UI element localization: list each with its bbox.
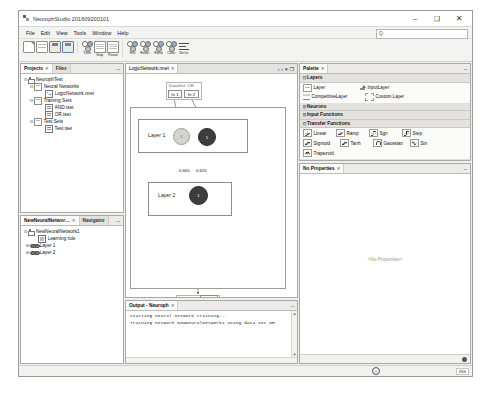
palette-item-inputlayer[interactable]: InputLayer [359,84,411,92]
minimize-icon[interactable]: – [114,216,123,225]
tset-file-icon [45,125,53,133]
pause-button[interactable]: Pause [107,41,119,57]
minimize-icon[interactable]: – [461,64,470,73]
palette-section-input-functions[interactable]: ⊞ Input Functions [300,111,470,120]
scroll-up-icon[interactable]: ▲ [292,311,297,316]
palette-item-custom-layer[interactable]: Custom Layer [365,93,417,101]
competitive-layer-glyph-icon [303,93,310,100]
scroll-left-icon[interactable]: ‹ [278,66,280,72]
menu-item-tools[interactable]: Tools [71,30,90,36]
output-chip-out1[interactable]: Out 1 [200,295,218,297]
scroll-down-icon[interactable]: ▼ [292,352,297,357]
minimize-icon[interactable]: – [114,64,123,73]
menu-item-file[interactable]: File [23,30,38,36]
clear-button[interactable]: Clear [165,41,177,55]
close-icon[interactable]: ✕ [171,303,175,308]
palette-item-linear[interactable]: Linear [303,129,333,137]
save-all-button[interactable] [62,41,74,53]
tab-files[interactable]: Files [53,64,71,73]
tree-node-and-tset[interactable]: AND.tset [22,104,122,111]
tree-node-test-sets[interactable]: ⊟ Test Sets [22,118,122,125]
randomize-button[interactable]: Rand [152,41,164,55]
minimize-icon[interactable]: – [404,12,426,26]
right-column: Palette ✕ – ⊟ Layers [299,63,471,364]
tree-node-test-tset[interactable]: Test.tset [22,125,122,132]
palette-item-gaussian[interactable]: Gaussian [373,139,407,147]
palette-section-layers[interactable]: ⊟ Layers [300,74,470,83]
maximize-editor-icon[interactable]: ❐ [290,66,294,72]
palette-item-competitivelayer[interactable]: CompetitiveLayer [303,93,361,101]
neuron-layer1-2[interactable]: 1 [198,128,216,146]
palette-item-ramp[interactable]: Ramp [336,129,366,137]
tab-palette[interactable]: Palette ✕ [300,64,328,73]
new-project-button[interactable] [36,41,48,53]
train-button[interactable]: Train [81,41,93,55]
tree-node-training-sets[interactable]: ⊟ Training Sets [22,97,122,104]
linear-glyph-icon [303,129,312,137]
palette-item-label: CompetitiveLayer [312,94,348,99]
palette-item-layer[interactable]: Layer [303,84,355,92]
palette-section-connections[interactable]: ⊞ Connections [300,159,470,160]
tree-label: OR.tset [55,112,71,117]
palette-item-sgn[interactable]: Sgn [369,129,399,137]
info-icon[interactable]: i [372,367,380,375]
palette-item-tanh[interactable]: Tanh [340,139,370,147]
help-icon[interactable] [462,357,467,362]
maximize-icon[interactable]: ❑ [426,12,448,26]
set-input-button[interactable]: Set In [178,41,190,55]
output-vertical-scrollbar[interactable]: ▲ ▼ [291,311,297,357]
learning-rule-icon [38,235,46,243]
open-project-button[interactable] [49,41,61,53]
reset-button[interactable]: Reset [139,41,151,55]
tab-newneuralnetwork[interactable]: NewNeuralNetwor… ✕ [21,216,80,225]
tree-node-neural-networks[interactable]: ⊟ Neural Networks [22,83,122,90]
tab-logicnetwork-nnet[interactable]: LogicNetwork.nnet ✕ [126,64,178,73]
close-icon[interactable]: ✕ [448,12,470,26]
projects-tree-body[interactable]: ⊟ NeurophTest ⊟ Neural Networks [21,74,123,212]
scroll-right-icon[interactable]: › [281,66,283,72]
navigator-panel: NewNeuralNetwor… ✕ Navigator – ⊟ [20,215,124,364]
weight-label-2: 0.625 [196,168,206,173]
close-icon[interactable]: ✕ [171,66,175,71]
palette-section-neurons[interactable]: ⊞ Neurons [300,103,470,112]
randomize-icon [153,41,163,51]
network-diagram-canvas[interactable]: DataSet: OR In 1 In 2 Layer 1 1 1 0.665 … [126,74,297,297]
tab-projects[interactable]: Projects ✕ [21,64,53,73]
palette-section-transfer-functions[interactable]: ⊟ Transfer Functions [300,120,470,129]
menu-item-help[interactable]: Help [114,30,131,36]
test-button[interactable]: Test [126,41,138,55]
tab-navigator[interactable]: Navigator [80,216,109,225]
tab-no-properties[interactable]: No Properties ✕ [300,164,344,173]
close-icon[interactable]: ✕ [72,218,76,223]
palette-item-step[interactable]: Step [402,129,432,137]
palette-item-trapezoid[interactable]: Trapezoid [303,149,341,157]
search-icon: Q‧ [379,31,384,36]
neuron-layer2-1[interactable]: 1 [189,186,208,205]
output-horizontal-scrollbar[interactable] [126,357,297,363]
properties-body[interactable]: <No Properties> [300,174,470,354]
menu-item-edit[interactable]: Edit [38,30,53,36]
input-chip-in2[interactable]: In 2 [184,90,199,98]
new-file-button[interactable] [23,41,35,53]
close-icon[interactable]: ✕ [336,166,340,171]
close-icon[interactable]: ✕ [45,66,49,71]
menu-item-view[interactable]: View [53,30,71,36]
output-console[interactable]: Starting neural network training... Trai… [126,311,297,357]
input-chip-in1[interactable]: In 1 [168,90,182,98]
navigator-tree-body[interactable]: ⊟ NewNeuralNetwork1 Learning rule ⊞ [21,226,123,363]
palette-item-sigmoid[interactable]: Sigmoid [303,139,337,147]
search-input[interactable]: Q‧ [376,29,468,39]
minimize-icon[interactable]: – [461,164,470,173]
tree-node-layer-1[interactable]: ⊞ Layer 1 [22,242,122,249]
stop-button[interactable]: Stop [94,41,106,57]
tree-node-layer-2[interactable]: ⊞ Layer 2 [22,249,122,256]
tree-node-learning-rule[interactable]: Learning rule [22,235,122,242]
tree-node-newneuralnetwork1[interactable]: ⊟ NewNeuralNetwork1 [22,228,122,235]
minimize-icon[interactable]: – [288,301,297,310]
tab-output-neuroph[interactable]: Output - Neuroph ✕ [126,301,178,310]
close-icon[interactable]: ✕ [321,66,325,71]
palette-item-sin[interactable]: Sin [410,139,438,147]
menu-item-window[interactable]: Window [89,30,114,36]
neuron-layer1-1[interactable]: 1 [173,128,190,145]
tab-list-icon[interactable]: ▾ [285,66,288,72]
